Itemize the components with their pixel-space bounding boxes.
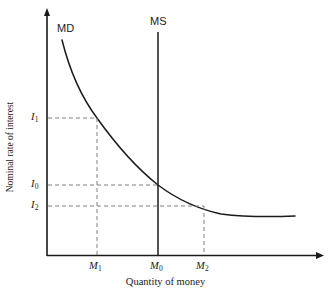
y-tick-i1-sub: 1 [35,115,39,124]
x-tick-m0-base: M [150,260,159,271]
x-tick-m1-base: M [89,260,98,271]
x-tick-m2-sub: 2 [205,264,209,273]
y-tick-label-i1: I1 [31,112,38,123]
x-axis-arrowhead [316,252,324,259]
x-tick-label-m0: M0 [150,261,163,272]
y-tick-i0-base: I [31,178,35,189]
x-tick-m0-sub: 0 [159,264,163,273]
money-demand-label: MD [57,23,75,34]
money-supply-label: MS [150,16,167,27]
y-tick-label-i2: I2 [31,200,38,211]
x-tick-label-m1: M1 [89,261,102,272]
x-tick-label-m2: M2 [196,261,209,272]
y-tick-i2-base: I [31,199,35,210]
y-tick-i2-sub: 2 [35,203,39,212]
chart-canvas [0,0,331,293]
x-tick-m1-sub: 1 [98,264,102,273]
money-market-chart: MD MS I1 I0 I2 M1 M0 M2 Quantity of mone… [0,0,331,293]
y-tick-label-i0: I0 [31,179,38,190]
y-axis-title: Nominal rate of interest [5,101,15,191]
y-tick-i0-sub: 0 [35,182,39,191]
y-axis-title-wrap: Nominal rate of interest [0,0,20,293]
x-axis-title: Quantity of money [0,277,331,288]
y-axis-arrowhead [44,8,50,16]
y-tick-i1-base: I [31,111,35,122]
x-tick-m2-base: M [196,260,205,271]
